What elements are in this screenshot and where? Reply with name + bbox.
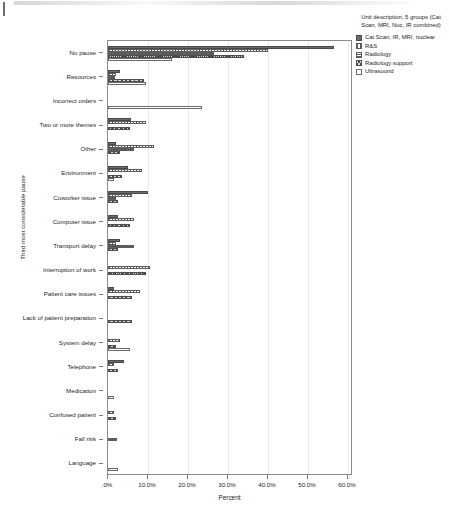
bar (108, 169, 142, 172)
legend-swatch-icon (356, 69, 362, 75)
plot-area (107, 40, 352, 475)
y-axis-label: Other (81, 145, 96, 152)
y-axis-tick (99, 439, 103, 440)
bar (108, 363, 114, 366)
bar (108, 417, 116, 420)
bar (108, 224, 130, 227)
y-axis-label: Two or more themes (40, 121, 96, 128)
legend-label: Ultrasound (365, 68, 394, 75)
x-axis-title: Percent (107, 494, 352, 501)
chart-page: No pauseResourcesIncorrect ordersTwo or … (0, 0, 449, 525)
y-axis-label: Confused patient (49, 411, 96, 418)
bar (108, 396, 114, 399)
y-axis-label: Computer issue (53, 218, 96, 225)
legend-label: Cat Scan, IR, MRI, nuclear (365, 34, 435, 41)
bar (108, 121, 146, 124)
bar (108, 218, 134, 221)
y-axis-tick (99, 463, 103, 464)
legend-item[interactable]: R&S (356, 43, 446, 50)
x-axis-tick-label: 30.0% (218, 481, 236, 488)
bar-group (108, 210, 351, 234)
x-axis-tick-label: .0% (102, 481, 113, 488)
x-axis-tick (107, 475, 108, 479)
y-axis-labels: No pauseResourcesIncorrect ordersTwo or … (0, 40, 103, 475)
bar (108, 296, 132, 299)
y-axis-label: Resources (66, 73, 96, 80)
x-axis-tick-label: 10.0% (138, 481, 156, 488)
y-axis-tick (99, 270, 103, 271)
bar (108, 127, 130, 130)
bar (108, 151, 120, 154)
scan-artifact-strip (14, 1, 409, 5)
bar-group (108, 331, 351, 355)
y-axis-label: Fall risk (75, 435, 96, 442)
bar-group (108, 41, 351, 65)
y-axis-label: Interruption of work (43, 266, 96, 273)
x-axis-tick (347, 475, 348, 479)
y-axis-label: Language (68, 459, 96, 466)
bar (108, 348, 130, 351)
bar (108, 320, 132, 323)
bar (108, 438, 117, 441)
y-axis-label: Telephone (67, 363, 96, 370)
bar-group (108, 162, 351, 186)
bar-group (108, 379, 351, 403)
y-axis-tick (99, 366, 103, 367)
legend-swatch-icon (356, 60, 362, 66)
x-axis-tick (307, 475, 308, 479)
y-axis-tick (99, 342, 103, 343)
x-axis-tick-label: 40.0% (258, 481, 276, 488)
bar (108, 82, 146, 85)
x-axis-tick-label: 20.0% (178, 481, 196, 488)
y-axis-tick (99, 390, 103, 391)
x-axis-tick (147, 475, 148, 479)
bar-group (108, 234, 351, 258)
legend: Unit description, 5 groups (Cat Scan, MR… (356, 14, 446, 77)
x-axis-tick-label: 60.0% (338, 481, 356, 488)
page-edge-marker (3, 2, 5, 16)
bar (108, 339, 120, 342)
y-axis-tick (99, 221, 103, 222)
legend-label: Radiology (365, 51, 391, 58)
x-axis-tick (227, 475, 228, 479)
bar (108, 369, 118, 372)
y-axis-tick (99, 173, 103, 174)
y-axis-tick (99, 294, 103, 295)
legend-label: R&S (365, 43, 377, 50)
y-axis-label: Incorrect orders (53, 97, 96, 104)
bar-group (108, 307, 351, 331)
bar (108, 468, 118, 471)
y-axis-title: Third most considerable pause (19, 158, 26, 278)
x-axis-tick (267, 475, 268, 479)
bar (108, 200, 118, 203)
y-axis-label: Medication (66, 387, 96, 394)
legend-swatch-icon (356, 52, 362, 58)
bar (108, 178, 114, 181)
legend-item[interactable]: Radiology support (356, 60, 446, 67)
x-axis-tick (187, 475, 188, 479)
y-axis-tick (99, 125, 103, 126)
y-axis-label: Environment (61, 169, 96, 176)
bar-group (108, 404, 351, 428)
bar (108, 272, 146, 275)
bar-group (108, 186, 351, 210)
bar-group (108, 114, 351, 138)
bar-group (108, 428, 351, 452)
legend-label: Radiology support (365, 60, 412, 67)
y-axis-label: No pause (70, 49, 97, 56)
legend-item[interactable]: Radiology (356, 51, 446, 58)
bar-group (108, 89, 351, 113)
y-axis-tick (99, 100, 103, 101)
y-axis-label: Lack of patient preparation (23, 314, 96, 321)
bar (108, 248, 118, 251)
legend-item[interactable]: Cat Scan, IR, MRI, nuclear (356, 34, 446, 41)
legend-title: Unit description, 5 groups (Cat Scan, MR… (356, 14, 446, 29)
bar (108, 106, 202, 109)
y-axis-label: Patient care issues (44, 290, 96, 297)
y-axis-tick (99, 245, 103, 246)
legend-item[interactable]: Ultrasound (356, 68, 446, 75)
y-axis-label: Coworker issue (53, 194, 96, 201)
y-axis-label: System delay (59, 339, 96, 346)
bar (108, 266, 150, 269)
bar (108, 58, 172, 61)
